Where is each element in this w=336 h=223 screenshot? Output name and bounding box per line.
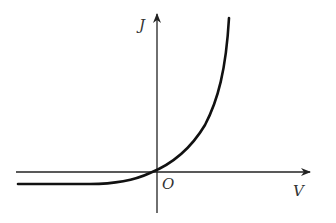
x-axis-label: V xyxy=(293,182,306,200)
jv-curve xyxy=(18,18,229,184)
y-axis-label: J xyxy=(136,16,146,34)
jv-diagram: J O V xyxy=(0,0,336,223)
origin-label: O xyxy=(162,175,174,193)
